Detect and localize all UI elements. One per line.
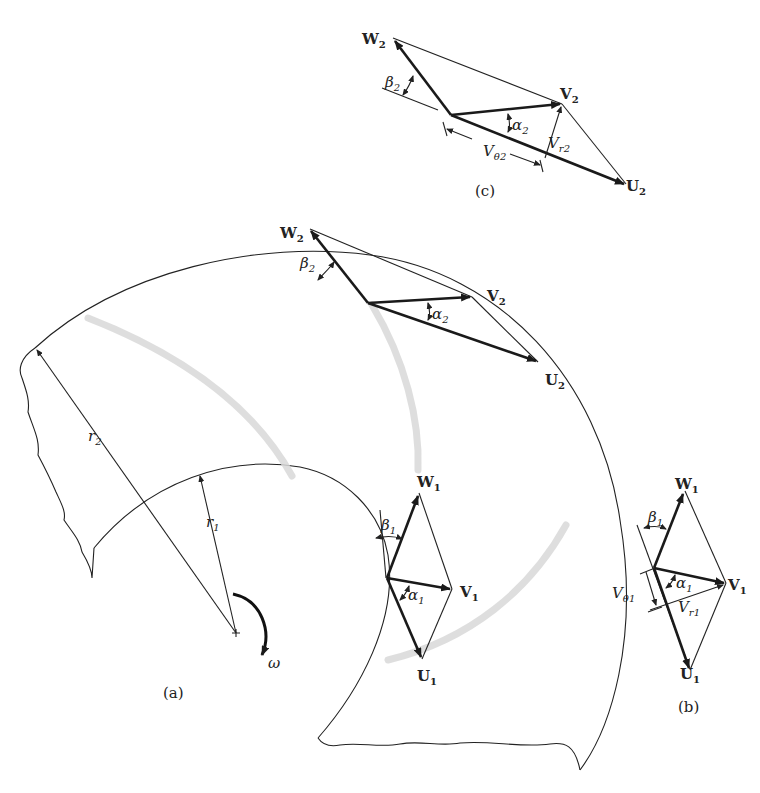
svg-text:V2: V2 — [486, 287, 506, 307]
svg-text:β1: β1 — [380, 516, 396, 536]
inlet-triangle-panel-b: W1 V1 U1 β1 α1 Vr1 Vθ1 (b) — [612, 475, 747, 716]
inlet-triangle-a: W1 V1 U1 β1 α1 — [376, 473, 479, 687]
inner-radius-arc — [94, 464, 390, 738]
svg-text:W2: W2 — [361, 30, 386, 50]
svg-text:β2: β2 — [299, 254, 315, 274]
blade-1 — [88, 318, 292, 476]
r1-line — [200, 476, 236, 633]
panel-a-caption: (a) — [163, 684, 184, 702]
svg-text:Vθ2: Vθ2 — [483, 142, 506, 162]
svg-text:Vr1: Vr1 — [678, 598, 700, 618]
svg-text:α1: α1 — [408, 586, 425, 606]
svg-text:U1: U1 — [417, 667, 437, 687]
panel-c-caption: (c) — [475, 182, 495, 200]
omega-rotation-arrow — [233, 594, 266, 655]
svg-text:β2: β2 — [384, 73, 400, 93]
velocity-triangle-diagram: r2 r1 ω (a) W2 V2 U2 β2 α2 — [0, 0, 760, 793]
omega-label: ω — [268, 654, 280, 672]
r2-line — [37, 350, 236, 633]
svg-text:Vr2: Vr2 — [548, 134, 570, 154]
bottom-break-edge — [318, 738, 580, 770]
center-mark — [232, 629, 240, 637]
svg-text:β1: β1 — [647, 508, 663, 528]
svg-text:U2: U2 — [626, 177, 646, 197]
svg-text:V1: V1 — [727, 576, 747, 596]
impeller-panel-a: r2 r1 ω (a) W2 V2 U2 β2 α2 — [20, 224, 626, 770]
svg-text:U1: U1 — [680, 665, 700, 685]
svg-text:Vθ1: Vθ1 — [612, 584, 635, 604]
svg-text:α2: α2 — [512, 116, 529, 136]
svg-text:W1: W1 — [674, 475, 699, 495]
svg-text:W2: W2 — [279, 224, 304, 244]
svg-text:V1: V1 — [459, 583, 479, 603]
svg-text:W1: W1 — [416, 473, 441, 493]
svg-text:V2: V2 — [559, 85, 579, 105]
outer-radius-arc — [35, 251, 626, 770]
outlet-triangle-panel-c: W2 V2 U2 β2 α2 Vr2 Vθ2 (c) — [361, 30, 646, 200]
outlet-triangle-a: W2 V2 U2 β2 α2 — [279, 224, 565, 391]
left-break-edge — [20, 348, 94, 578]
svg-text:α2: α2 — [432, 305, 449, 325]
r1-label: r1 — [206, 513, 220, 533]
panel-b-caption: (b) — [678, 698, 699, 716]
blade-2 — [372, 305, 418, 470]
r2-label: r2 — [88, 427, 102, 447]
svg-text:U2: U2 — [545, 371, 565, 391]
